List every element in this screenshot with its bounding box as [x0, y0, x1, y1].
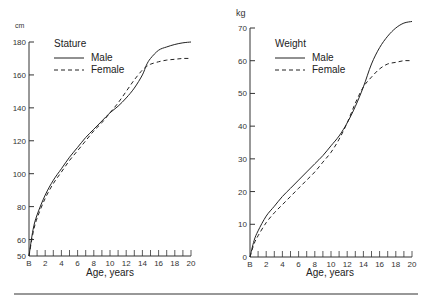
legend-female-label: Female: [91, 64, 125, 75]
y-tick-label: 80: [17, 203, 26, 212]
y-tick-label: 70: [238, 24, 247, 33]
x-tick-label: 14: [359, 260, 368, 269]
x-tick-label: 16: [154, 259, 163, 268]
y-unit-label: cm: [15, 22, 25, 29]
x-tick-label: 4: [280, 260, 285, 269]
y-tick-label: 40: [238, 122, 247, 131]
x-tick-label: B: [247, 260, 252, 269]
x-tick-label: 16: [375, 260, 384, 269]
y-tick-label: 120: [13, 137, 27, 146]
x-tick-label: B: [26, 259, 31, 268]
x-tick-label: 2: [264, 260, 269, 269]
growth-charts-figure: cm 506080100120140160180B246810121416182…: [0, 0, 427, 297]
stature-legend: Stature Male Female: [54, 38, 125, 75]
x-tick-label: 18: [391, 260, 400, 269]
x-tick-label: 2: [43, 259, 48, 268]
y-tick-label: 140: [13, 104, 27, 113]
legend-female-label: Female: [312, 64, 346, 75]
x-tick-label: 4: [59, 259, 64, 268]
y-tick-label: 100: [13, 170, 27, 179]
weight-legend: Weight Male Female: [275, 38, 346, 75]
legend-title: Weight: [275, 38, 306, 49]
y-tick-label: 60: [17, 236, 26, 245]
x-tick-label: 20: [408, 260, 417, 269]
legend-title: Stature: [54, 38, 87, 49]
x-tick-label: 6: [75, 259, 80, 268]
x-axis-title: Age, years: [306, 267, 354, 278]
female-curve: [250, 61, 412, 257]
y-tick-label: 10: [238, 220, 247, 229]
x-tick-label: 20: [187, 259, 196, 268]
y-tick-label: 60: [238, 57, 247, 66]
x-axis-title: Age, years: [86, 267, 134, 278]
y-tick-label: 50: [238, 89, 247, 98]
x-tick-label: 18: [170, 259, 179, 268]
x-tick-label: 6: [296, 260, 301, 269]
y-tick-label: 20: [238, 188, 247, 197]
y-unit-label: kg: [236, 8, 246, 18]
y-tick-label: 50: [17, 252, 26, 261]
weight-chart: kg 010203040506070B2468101214161820 Weig…: [236, 8, 417, 278]
y-tick-label: 180: [13, 38, 27, 47]
y-tick-label: 30: [238, 155, 247, 164]
legend-male-label: Male: [312, 52, 334, 63]
stature-chart: cm 506080100120140160180B246810121416182…: [13, 22, 196, 278]
y-tick-label: 160: [13, 71, 27, 80]
x-tick-label: 14: [138, 259, 147, 268]
legend-male-label: Male: [91, 52, 113, 63]
female-curve: [29, 58, 191, 256]
